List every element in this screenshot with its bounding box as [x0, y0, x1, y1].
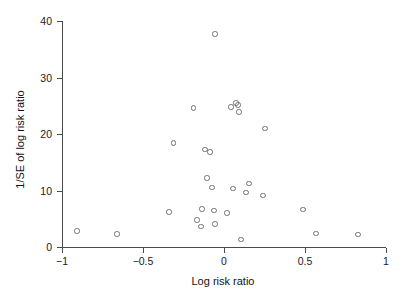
- data-point: [166, 209, 171, 214]
- data-point: [230, 186, 235, 191]
- x-tick-label: 0: [221, 256, 227, 267]
- x-tick-mark: [62, 248, 63, 253]
- data-point: [355, 232, 360, 237]
- data-point: [235, 102, 240, 107]
- data-point: [171, 140, 176, 145]
- x-tick-mark: [224, 248, 225, 253]
- data-point: [191, 105, 196, 110]
- data-point: [198, 224, 203, 229]
- y-tick-label: 0: [22, 242, 52, 253]
- y-tick-label: 40: [22, 16, 52, 27]
- x-tick-label: −0.5: [133, 256, 154, 267]
- data-point: [224, 210, 229, 215]
- data-point: [238, 237, 243, 242]
- data-point: [212, 31, 217, 36]
- data-point: [74, 228, 79, 233]
- data-point: [300, 207, 305, 212]
- data-point: [246, 181, 251, 186]
- x-tick-mark: [143, 248, 144, 253]
- data-point: [194, 217, 199, 222]
- data-point: [114, 231, 119, 236]
- y-axis-title: 1/SE of log risk ratio: [15, 60, 26, 220]
- data-point: [209, 185, 214, 190]
- x-tick-mark: [386, 248, 387, 253]
- data-point: [243, 190, 248, 195]
- x-tick-mark: [305, 248, 306, 253]
- x-tick-label: 1: [383, 256, 389, 267]
- funnel-plot-figure: 010203040 −1−0.500.51 Log risk ratio 1/S…: [0, 0, 408, 302]
- data-point: [207, 149, 212, 154]
- data-point: [260, 193, 265, 198]
- data-point: [313, 231, 318, 236]
- y-tick-label: 30: [22, 72, 52, 83]
- x-tick-label: 0.5: [298, 256, 313, 267]
- plot-area: [62, 21, 386, 247]
- data-point: [262, 126, 267, 131]
- data-point: [236, 109, 241, 114]
- x-axis-title: Log risk ratio: [0, 276, 408, 287]
- data-point: [212, 221, 217, 226]
- y-tick-label: 10: [22, 185, 52, 196]
- y-tick-label: 20: [22, 129, 52, 140]
- data-point: [204, 175, 209, 180]
- data-point: [199, 206, 204, 211]
- x-tick-label: −1: [56, 256, 68, 267]
- data-point: [211, 208, 216, 213]
